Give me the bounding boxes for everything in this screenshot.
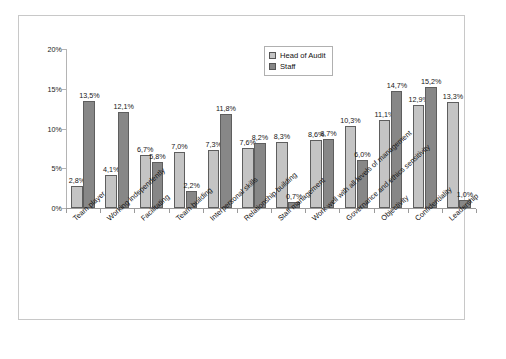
- x-tick-mark: [66, 209, 67, 213]
- bar: [105, 175, 117, 208]
- bar-value-label: 5,8%: [148, 153, 168, 161]
- bar-value-label: 8,7%: [318, 130, 338, 138]
- x-tick-mark: [408, 209, 409, 213]
- bar: [345, 126, 357, 208]
- y-tick-mark: [62, 89, 66, 90]
- bar: [118, 112, 130, 208]
- bar-value-label: 7,0%: [169, 143, 189, 151]
- legend-label: Head of Audit: [280, 51, 326, 60]
- x-tick-mark: [237, 209, 238, 213]
- bar-value-label: 8,3%: [272, 133, 292, 141]
- y-tick-label: 15%: [48, 85, 62, 94]
- bar: [310, 140, 322, 208]
- x-tick-mark: [374, 209, 375, 213]
- legend-swatch-icon: [269, 63, 276, 70]
- bar-value-label: 14,7%: [387, 82, 407, 90]
- bar-value-label: 8,2%: [250, 134, 270, 142]
- legend-item-head-of-audit: Head of Audit: [269, 50, 326, 61]
- x-tick-mark: [203, 209, 204, 213]
- bar-value-label: 2,2%: [182, 182, 202, 190]
- y-tick-label: 20%: [48, 45, 62, 54]
- x-tick-mark: [100, 209, 101, 213]
- x-tick-mark: [134, 209, 135, 213]
- x-tick-mark: [442, 209, 443, 213]
- bar-value-label: 15,2%: [421, 78, 441, 86]
- bar: [220, 114, 232, 208]
- bar-value-label: 12,1%: [113, 103, 133, 111]
- x-tick-mark: [476, 209, 477, 213]
- x-tick-mark: [305, 209, 306, 213]
- bar-value-label: 13,5%: [79, 92, 99, 100]
- y-tick-mark: [62, 168, 66, 169]
- bar: [208, 150, 220, 208]
- y-tick-label: 0%: [52, 204, 62, 213]
- y-tick-label: 10%: [48, 125, 62, 134]
- bar-value-label: 11,8%: [216, 105, 236, 113]
- y-tick-label: 5%: [52, 164, 62, 173]
- bar-value-label: 6,0%: [353, 151, 373, 159]
- x-tick-mark: [271, 209, 272, 213]
- y-tick-mark: [62, 49, 66, 50]
- bar: [83, 101, 95, 208]
- chart-frame: 0%5%10%15%20% 2,8%13,5%4,1%12,1%6,7%5,8%…: [18, 15, 465, 320]
- bar-chart: 0%5%10%15%20% 2,8%13,5%4,1%12,1%6,7%5,8%…: [0, 0, 506, 359]
- x-tick-mark: [169, 209, 170, 213]
- bar-value-label: 10,3%: [340, 117, 360, 125]
- bar-value-label: 13,3%: [443, 93, 463, 101]
- bar: [71, 186, 83, 208]
- y-tick-mark: [62, 129, 66, 130]
- chart-legend: Head of Audit Staff: [264, 46, 333, 76]
- y-axis-line: [66, 49, 67, 209]
- legend-label: Staff: [280, 62, 295, 71]
- legend-swatch-icon: [269, 52, 276, 59]
- legend-item-staff: Staff: [269, 61, 326, 72]
- x-tick-mark: [339, 209, 340, 213]
